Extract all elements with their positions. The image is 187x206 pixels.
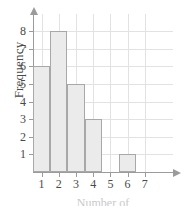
x-tick-label: 6	[120, 178, 136, 190]
y-tick-label: 3	[12, 113, 26, 125]
bar	[119, 154, 136, 172]
x-axis-title: Number of	[33, 196, 173, 206]
bar	[33, 66, 50, 172]
y-tick-mark	[29, 49, 34, 50]
y-tick-label: 2	[12, 131, 26, 143]
x-tick-label: 3	[68, 178, 84, 190]
y-tick-label: 4	[12, 96, 26, 108]
bar	[67, 84, 84, 172]
x-tick-label: 1	[34, 178, 50, 190]
y-tick-label: 1	[12, 148, 26, 160]
x-tick-label: 7	[137, 178, 153, 190]
y-tick-label: 8	[12, 25, 26, 37]
x-tick-label: 5	[102, 178, 118, 190]
y-tick-label: 5	[12, 78, 26, 90]
gridline-vertical	[145, 14, 146, 172]
bar	[50, 31, 67, 172]
gridline-vertical	[128, 14, 129, 172]
x-axis-line	[33, 172, 174, 173]
x-tick-label: 4	[85, 178, 101, 190]
y-tick-mark	[29, 31, 34, 32]
plot-area: 12345678 1234567	[0, 0, 187, 206]
y-tick-label: 7	[12, 43, 26, 55]
y-tick-label: 6	[12, 60, 26, 72]
histogram-chart: Frequency 12345678 1234567 Number of	[0, 0, 187, 206]
x-axis-arrow-icon	[173, 169, 181, 177]
gridline-vertical	[110, 14, 111, 172]
y-axis-arrow-icon	[30, 7, 38, 15]
bar	[85, 119, 102, 172]
x-tick-label: 2	[51, 178, 67, 190]
